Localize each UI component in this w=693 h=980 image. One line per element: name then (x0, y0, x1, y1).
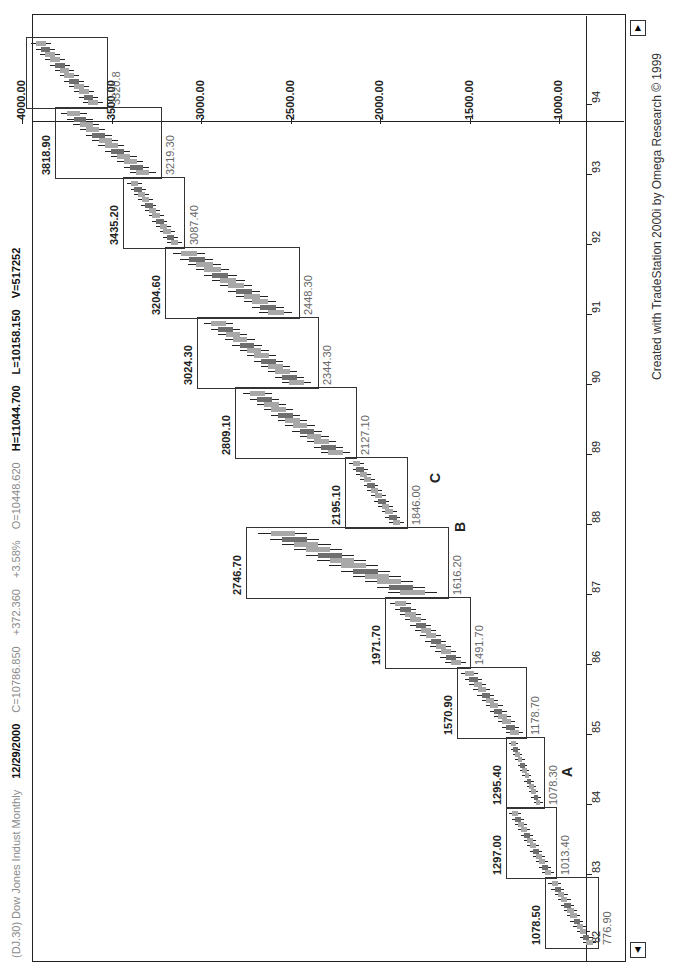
annotation-b: B (452, 522, 468, 532)
price-bar-body (60, 68, 70, 73)
change-label: +372.360 (10, 589, 22, 635)
price-bar-body (531, 789, 536, 794)
price-bar-body (524, 833, 530, 838)
price-tick-mark (201, 118, 202, 124)
price-bar-body (525, 773, 530, 778)
price-bar-body (353, 569, 377, 574)
box-low-label: 3087.40 (188, 205, 200, 245)
price-tick-mark (291, 118, 292, 124)
price-bar-body (580, 929, 586, 934)
year-tick-mark (586, 524, 592, 525)
price-bar-body (240, 343, 255, 348)
price-bar-body (300, 429, 315, 434)
price-bar-body (512, 811, 518, 816)
price-bar-body (494, 709, 502, 714)
price-bar-body (486, 698, 494, 703)
year-tick-label: 92 (590, 231, 602, 243)
price-bar-body (181, 251, 197, 256)
price-bar-body (275, 369, 290, 374)
price-bar-body (395, 601, 405, 606)
price-bar-body (490, 703, 498, 708)
box-low-label: 1491.70 (473, 625, 485, 665)
year-tick-mark (586, 804, 592, 805)
price-bar-body (441, 649, 451, 654)
year-tick-label: 88 (590, 511, 602, 523)
price-bar-body (482, 693, 490, 698)
price-bar-body (410, 617, 420, 622)
year-tick-label: 91 (590, 301, 602, 313)
price-bar-body (567, 908, 573, 913)
price-bar-body (211, 321, 226, 326)
price-bar-body (511, 741, 516, 746)
box-low-label: 2127.10 (359, 415, 371, 455)
year-tick-label: 86 (590, 651, 602, 663)
price-bar-body (264, 402, 279, 407)
year-tick-mark (586, 454, 592, 455)
price-bar-body (586, 940, 592, 945)
box-low-label: 1846.00 (410, 485, 422, 525)
price-bar-body (534, 795, 539, 800)
price-bar-body (542, 865, 548, 870)
box-high-label: 2809.10 (220, 415, 232, 455)
open-label: O=10448.620 (10, 462, 22, 529)
box-high-label: 1971.70 (370, 625, 382, 665)
year-tick-label: 93 (590, 161, 602, 173)
price-tick-mark (470, 118, 471, 124)
year-tick-label: 90 (590, 371, 602, 383)
price-bar-body (145, 203, 152, 208)
price-bar-body (536, 800, 541, 805)
price-bar-body (385, 509, 392, 514)
price-bar-body (67, 111, 80, 116)
price-bar-body (518, 822, 524, 827)
price-bar-body (294, 542, 318, 547)
chart-header: (DJ.30) Dow Jones Indust Monthly 12/29/2… (10, 240, 22, 958)
price-bar-body (522, 768, 527, 773)
price-bar-body (247, 348, 262, 353)
box-high-label: 2746.70 (231, 555, 243, 595)
price-bar-body (236, 289, 252, 294)
price-bar-body (378, 499, 385, 504)
price-bar-body (285, 418, 300, 423)
price-bar-body (371, 488, 378, 493)
box-low-label: 2448.30 (302, 275, 314, 315)
scroll-right-button[interactable]: ▶ (630, 20, 646, 36)
price-bar-body (64, 73, 74, 78)
price-bar-body (536, 854, 542, 859)
price-bar-body (393, 520, 400, 525)
date-label: 12/29/2000 (10, 724, 22, 779)
price-bar-body (498, 714, 506, 719)
price-bar-body (257, 397, 272, 402)
year-tick-mark (586, 664, 592, 665)
price-bar-body (171, 240, 178, 245)
price-bar-body (268, 364, 283, 369)
box-high-label: 1078.50 (530, 905, 542, 945)
symbol-label: (DJ.30) Dow Jones Indust Monthly (10, 790, 22, 958)
price-bar-body (233, 337, 248, 342)
scroll-left-button[interactable]: ◀ (630, 942, 646, 958)
price-tick-label: 2500.00 (284, 80, 296, 120)
volume-label: V=517252 (10, 248, 22, 298)
price-bar-body (314, 439, 329, 444)
price-bar-body (306, 547, 330, 552)
price-bar-body (117, 154, 130, 159)
high-label: H=11044.700 (10, 385, 22, 451)
price-bar-body (356, 467, 363, 472)
price-bar-body (400, 607, 410, 612)
price-bar-body (80, 122, 93, 127)
price-bar-body (377, 579, 401, 584)
price-bar-body (416, 623, 426, 628)
price-bar-body (289, 380, 304, 385)
box-low-label: 1013.40 (559, 835, 571, 875)
price-tick-label: 3000.00 (194, 80, 206, 120)
price-bar-body (196, 262, 212, 267)
year-tick-label: 84 (590, 791, 602, 803)
price-bar-body (353, 461, 360, 466)
price-bar-body (261, 359, 276, 364)
price-bar-body (41, 47, 51, 52)
price-bar-body (152, 213, 159, 218)
price-bar-body (341, 563, 365, 568)
price-bar-body (570, 913, 576, 918)
price-bar-body (574, 919, 580, 924)
price-bar-body (74, 84, 84, 89)
price-bar-body (360, 472, 367, 477)
